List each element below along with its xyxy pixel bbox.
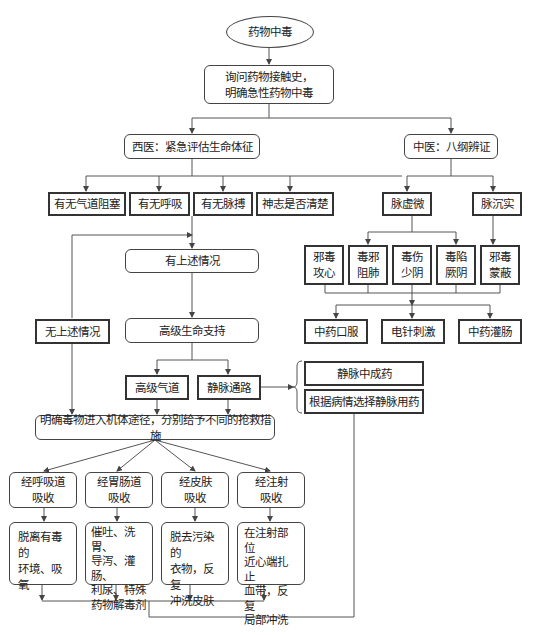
conditions-absent-node: 无上述情况 (35, 319, 110, 344)
conditions-absent-label: 无上述情况 (45, 324, 100, 340)
pattern-node: 毒邪 阻肺 (348, 245, 388, 285)
iv-drug-by-condition-node: 根据病情选择静脉用药 (304, 389, 424, 414)
check-pulse-node: 有无脉搏 (193, 192, 253, 216)
pulse-weak-node: 脉虚微 (382, 192, 432, 216)
action-respiratory-node: 脱离有毒的 环境、吸氧 (9, 522, 77, 585)
inquiry-label: 询问药物接触史， 明确急性药物中毒 (225, 69, 313, 101)
route-gastrointestinal-node: 经胃肠道 吸收 (85, 472, 153, 508)
pattern-label: 邪毒 蒙蔽 (489, 249, 511, 281)
route-skin-node: 经皮肤 吸收 (161, 472, 229, 508)
iv-option-label: 静脉中成药 (337, 366, 392, 382)
western-title: 西医：紧急评估生命体征 (132, 139, 253, 155)
pattern-label: 毒陷 厥阴 (445, 249, 467, 281)
action-label: 脱离有毒的 环境、吸氧 (18, 529, 68, 593)
tcm-title: 中医：八纲辨证 (413, 139, 490, 155)
start-node: 药物中毒 (226, 16, 314, 48)
action-gastrointestinal-node: 催吐、洗胃、 导泻、灌肠、 利尿、特殊 药物解毒剂 (85, 522, 153, 585)
pattern-label: 毒邪 阻肺 (357, 249, 379, 281)
route-respiratory-node: 经呼吸道 吸收 (9, 472, 77, 508)
treatment-oral-tcm-node: 中药口服 (304, 319, 368, 344)
route-label: 经胃肠道 吸收 (97, 474, 141, 506)
treatment-label: 中药灌肠 (468, 324, 512, 340)
action-skin-node: 脱去污染的 衣物，反复 冲洗皮肤 (161, 522, 229, 585)
treatment-electroacupuncture-node: 电针刺激 (381, 319, 445, 344)
advanced-life-support-node: 高级生命支持 (125, 318, 259, 343)
exposure-route-label: 明确毒物进入机体途径，分别给予不同的抢救措施 (36, 412, 274, 444)
check-label: 有无气道阻塞 (54, 196, 120, 212)
tcm-node: 中医：八纲辨证 (404, 134, 498, 159)
action-label: 在注射部位 近心端扎止 血带，反复 局部冲洗 (244, 526, 298, 628)
treatment-label: 中药口服 (314, 324, 358, 340)
pattern-node: 毒陷 厥阴 (436, 245, 476, 285)
action-label: 催吐、洗胃、 导泻、灌肠、 利尿、特殊 药物解毒剂 (91, 525, 147, 612)
route-label: 经皮肤 吸收 (179, 474, 212, 506)
route-injection-node: 经注射 吸收 (237, 472, 305, 508)
advanced-airway-label: 高级气道 (135, 380, 179, 396)
iv-option-label: 根据病情选择静脉用药 (309, 394, 419, 410)
pattern-node: 邪毒 攻心 (304, 245, 344, 285)
flowchart: 药物中毒 询问药物接触史， 明确急性药物中毒 西医：紧急评估生命体征 有无气道阻… (0, 0, 538, 635)
pattern-label: 毒伤 少阴 (401, 249, 423, 281)
pulse-label: 脉沉实 (481, 196, 514, 212)
treatment-tcm-enema-node: 中药灌肠 (458, 319, 522, 344)
check-breathing-node: 有无呼吸 (129, 192, 190, 216)
conditions-present-label: 有上述情况 (165, 253, 220, 269)
pattern-node: 毒伤 少阴 (392, 245, 432, 285)
als-label: 高级生命支持 (159, 323, 225, 339)
pattern-label: 邪毒 攻心 (313, 249, 335, 281)
check-consciousness-node: 神志是否清楚 (256, 192, 334, 216)
western-medicine-node: 西医：紧急评估生命体征 (124, 134, 260, 159)
action-injection-node: 在注射部位 近心端扎止 血带，反复 局部冲洗 (237, 522, 305, 585)
iv-access-label: 静脉通路 (207, 380, 251, 396)
treatment-label: 电针刺激 (391, 324, 435, 340)
pulse-label: 脉虚微 (391, 196, 424, 212)
iv-tcm-drug-node: 静脉中成药 (304, 361, 424, 386)
advanced-airway-node: 高级气道 (125, 375, 189, 400)
check-label: 有无呼吸 (138, 196, 182, 212)
inquiry-node: 询问药物接触史， 明确急性药物中毒 (204, 65, 334, 104)
pattern-node: 邪毒 蒙蔽 (480, 245, 520, 285)
pulse-deep-node: 脉沉实 (472, 192, 522, 216)
route-label: 经注射 吸收 (255, 474, 288, 506)
check-airway-node: 有无气道阻塞 (48, 192, 126, 216)
check-label: 有无脉搏 (201, 196, 245, 212)
start-label: 药物中毒 (248, 24, 292, 40)
exposure-route-node: 明确毒物进入机体途径，分别给予不同的抢救措施 (35, 415, 275, 440)
check-label: 神志是否清楚 (262, 196, 328, 212)
action-label: 脱去污染的 衣物，反复 冲洗皮肤 (170, 529, 220, 609)
iv-access-node: 静脉通路 (197, 375, 261, 400)
conditions-present-node: 有上述情况 (125, 249, 259, 273)
route-label: 经呼吸道 吸收 (21, 474, 65, 506)
